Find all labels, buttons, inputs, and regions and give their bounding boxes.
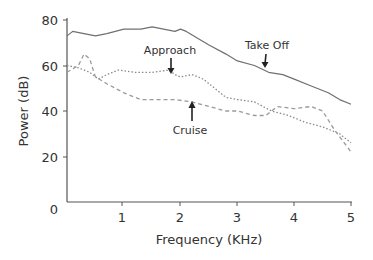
x-tick-label: 5 xyxy=(347,210,355,225)
x-tick-label: 1 xyxy=(118,210,126,225)
y-tick-label: 60 xyxy=(41,59,58,74)
x-axis-title: Frequency (KHz) xyxy=(156,232,263,247)
y-tick-label: 20 xyxy=(41,150,58,165)
annotation-cruise: Cruise xyxy=(173,101,208,137)
series-layer xyxy=(67,27,351,152)
power-spectrum-chart: 80 60 40 20 0 1 2 3 4 5 Frequency (KHz) … xyxy=(0,0,373,260)
arrow-head-icon xyxy=(262,62,269,68)
y-axis-title: Power (dB) xyxy=(16,76,31,147)
y-tick-label: 80 xyxy=(41,13,58,28)
takeoff-label: Take Off xyxy=(244,39,290,52)
series-take-off xyxy=(67,27,351,104)
approach-label: Approach xyxy=(144,44,196,57)
annotation-takeoff: Take Off xyxy=(244,39,290,68)
y-tick-labels: 80 60 40 20 0 xyxy=(41,13,58,217)
x-tick-label: 4 xyxy=(290,210,298,225)
axes xyxy=(63,18,352,206)
cruise-label: Cruise xyxy=(173,124,208,137)
annotation-approach: Approach xyxy=(144,44,196,74)
y-tick-label: 40 xyxy=(41,104,58,119)
series-approach xyxy=(67,66,351,143)
x-tick-labels: 1 2 3 4 5 xyxy=(118,210,355,225)
y-tick-label: 0 xyxy=(50,202,58,217)
x-tick-label: 3 xyxy=(233,210,241,225)
x-tick-label: 2 xyxy=(176,210,184,225)
series-cruise xyxy=(67,54,351,152)
